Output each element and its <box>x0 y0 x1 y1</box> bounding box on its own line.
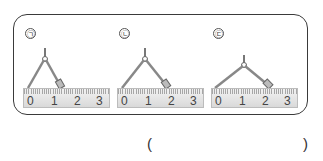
panel-label-a: ㉠ <box>25 28 36 39</box>
panel-label-c: ㉢ <box>213 28 224 39</box>
panel-label-b: ㉡ <box>119 28 130 39</box>
ruler-number: 1 <box>51 94 58 108</box>
answer-blank[interactable] <box>160 135 300 153</box>
ruler-number: 3 <box>96 94 103 108</box>
ruler-number: 1 <box>145 94 152 108</box>
ruler: 0 1 2 3 <box>117 88 204 108</box>
ruler-number: 1 <box>239 94 246 108</box>
answer-close-paren: ) <box>303 135 308 152</box>
ruler: 0 1 2 3 <box>211 88 298 108</box>
ruler-number: 2 <box>262 94 269 108</box>
ruler-number: 3 <box>190 94 197 108</box>
ruler-number: 0 <box>215 94 222 108</box>
ruler-number: 2 <box>168 94 175 108</box>
ruler-number: 2 <box>74 94 81 108</box>
ruler: 0 1 2 3 <box>23 88 110 108</box>
answer-open-paren: ( <box>147 135 152 152</box>
ruler-number: 3 <box>284 94 291 108</box>
ruler-number: 0 <box>27 94 34 108</box>
ruler-number: 0 <box>121 94 128 108</box>
